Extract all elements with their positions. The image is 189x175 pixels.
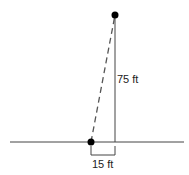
top-point — [112, 12, 119, 19]
base-label: 15 ft — [92, 158, 113, 170]
right-triangle-diagram: 75 ft 15 ft — [0, 0, 189, 175]
dashed-hypotenuse — [91, 15, 115, 142]
base-bracket — [91, 146, 115, 155]
bottom-point — [88, 139, 95, 146]
height-label: 75 ft — [117, 73, 138, 85]
diagram: 75 ft 15 ft — [0, 0, 189, 175]
